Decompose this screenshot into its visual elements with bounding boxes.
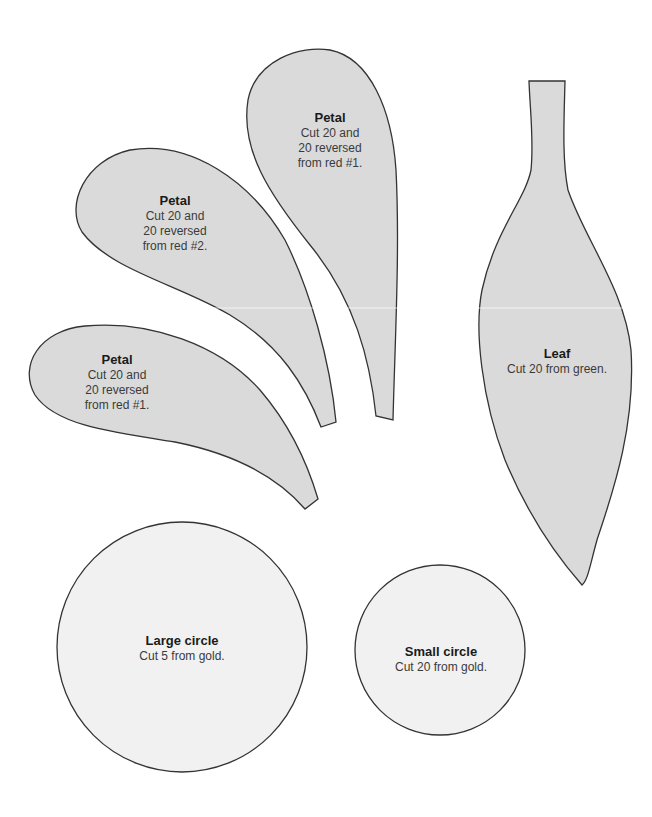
petal-middle-title: Petal: [143, 192, 208, 209]
small-circle-label: Small circle Cut 20 from gold.: [395, 643, 487, 675]
leaf-label: Leaf Cut 20 from green.: [507, 345, 607, 377]
large-circle-title: Large circle: [139, 632, 224, 649]
small-circle-line-1: Cut 20 from gold.: [395, 660, 487, 675]
petal-bottom-shape: [29, 325, 318, 509]
petal-top-line-1: Cut 20 and: [298, 126, 363, 141]
small-circle-title: Small circle: [395, 643, 487, 660]
petal-bottom-title: Petal: [85, 351, 150, 368]
petal-top-line-2: 20 reversed: [298, 141, 363, 156]
petal-bottom-line-3: from red #1.: [85, 398, 150, 413]
petal-middle-label: Petal Cut 20 and 20 reversed from red #2…: [143, 192, 208, 254]
large-circle-label: Large circle Cut 5 from gold.: [139, 632, 224, 664]
petal-bottom-line-2: 20 reversed: [85, 383, 150, 398]
petal-middle-line-2: 20 reversed: [143, 224, 208, 239]
petal-middle-line-1: Cut 20 and: [143, 209, 208, 224]
leaf-title: Leaf: [507, 345, 607, 362]
petal-top-line-3: from red #1.: [298, 156, 363, 171]
large-circle-line-1: Cut 5 from gold.: [139, 649, 224, 664]
petal-top-title: Petal: [298, 109, 363, 126]
petal-bottom-label: Petal Cut 20 and 20 reversed from red #1…: [85, 351, 150, 413]
petal-top-label: Petal Cut 20 and 20 reversed from red #1…: [298, 109, 363, 171]
petal-bottom-line-1: Cut 20 and: [85, 368, 150, 383]
leaf-line-1: Cut 20 from green.: [507, 362, 607, 377]
leaf-shape: [479, 81, 632, 585]
petal-middle-line-3: from red #2.: [143, 239, 208, 254]
